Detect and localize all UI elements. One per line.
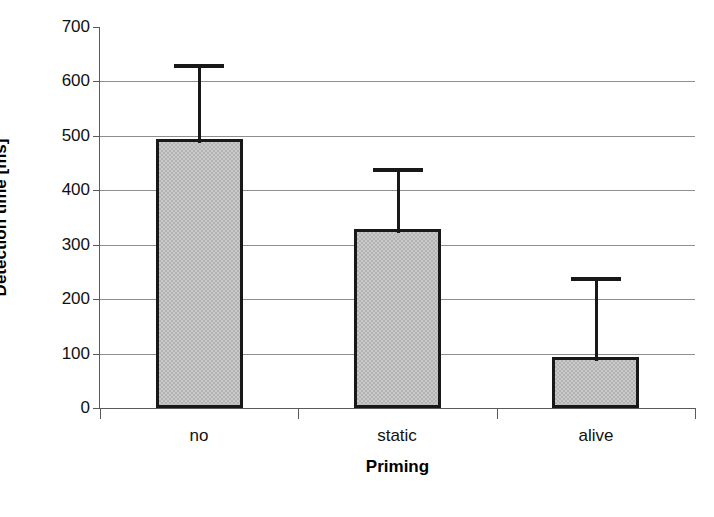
error-bar-stem-no <box>198 64 201 143</box>
error-bar-cap-alive <box>571 277 621 281</box>
x-axis-tick <box>497 409 498 419</box>
chart-figure: Detection time [ms] 01002003004005006007… <box>0 0 714 517</box>
error-bar-stem-static <box>397 168 400 233</box>
y-axis-tick-label: 500 <box>62 127 90 144</box>
bar-alive <box>552 357 639 408</box>
y-axis-tick <box>93 245 100 246</box>
y-axis-tick <box>93 190 100 191</box>
x-axis-tick <box>695 409 696 419</box>
bar-static <box>354 229 441 408</box>
y-axis-title-text: Detection time [ms] <box>0 27 14 408</box>
x-axis-tick <box>100 409 101 419</box>
error-bar-cap-static <box>373 168 423 172</box>
x-axis-tick-label-no: no <box>100 427 298 444</box>
y-axis-title: Detection time [ms] <box>14 27 41 408</box>
y-axis-tick <box>93 27 100 28</box>
y-axis-tick-label: 600 <box>62 72 90 89</box>
gridline <box>100 81 695 82</box>
y-axis-tick-label: 700 <box>62 18 90 35</box>
y-axis-tick-label: 300 <box>62 236 90 253</box>
y-axis-tick <box>93 299 100 300</box>
y-axis-tick-label: 100 <box>62 345 90 362</box>
caption-fragment <box>30 503 680 515</box>
y-axis-tick <box>93 354 100 355</box>
y-axis-tick <box>93 136 100 137</box>
x-axis-title: Priming <box>100 458 695 475</box>
y-axis-tick-label: 200 <box>62 290 90 307</box>
error-bar-cap-no <box>174 64 224 68</box>
x-axis-tick-label-alive: alive <box>497 427 695 444</box>
x-axis-line <box>99 408 696 409</box>
gridline <box>100 136 695 137</box>
x-axis-tick <box>298 409 299 419</box>
y-axis-tick <box>93 408 100 409</box>
bar-no <box>156 139 243 408</box>
x-axis-tick-label-static: static <box>298 427 496 444</box>
error-bar-stem-alive <box>595 277 598 361</box>
y-axis-tick-label: 400 <box>62 181 90 198</box>
y-axis-tick-label: 0 <box>81 399 90 416</box>
y-axis-tick <box>93 81 100 82</box>
